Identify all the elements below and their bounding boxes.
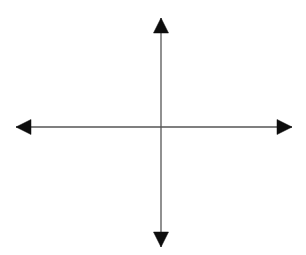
figure-canvas: [0, 0, 306, 255]
axes-diagram: [0, 0, 306, 255]
